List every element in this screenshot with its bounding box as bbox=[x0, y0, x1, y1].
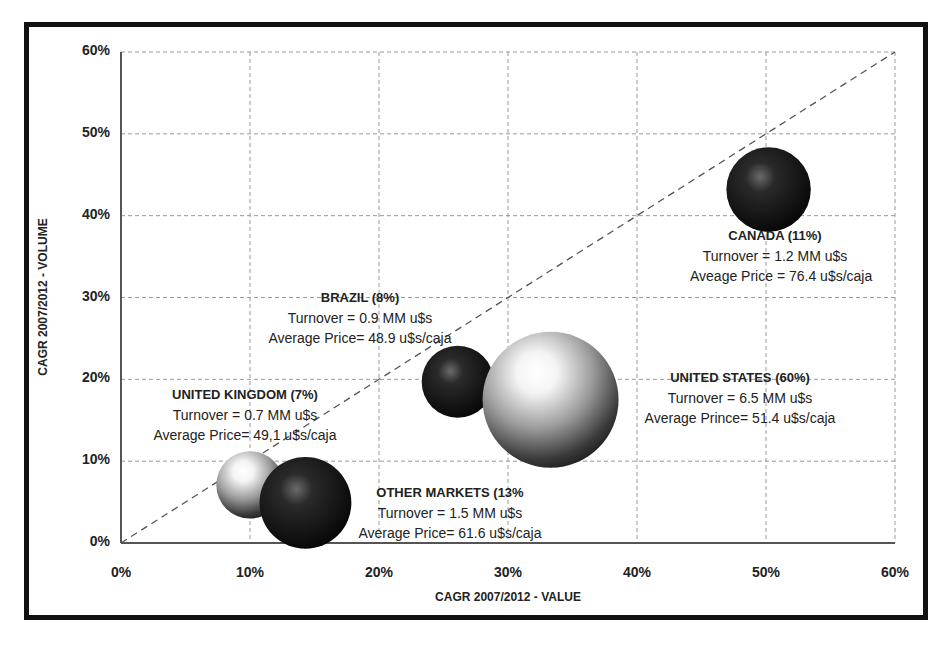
bubble-canada bbox=[726, 147, 810, 231]
label-brazil-title: BRAZIL (8%) bbox=[255, 288, 465, 308]
label-canada: CANADA (11%) Turnover = 1.2 MM u$s Aveag… bbox=[690, 226, 860, 286]
label-uk-title: UNITED KINGDOM (7%) bbox=[140, 385, 350, 405]
label-canada-price: Aveage Price = 76.4 u$s/caja bbox=[690, 266, 860, 286]
x-tick-label: 60% bbox=[865, 564, 925, 580]
label-uk-price: Average Price= 49,1 u$s/caja bbox=[140, 425, 350, 445]
y-tick-label: 10% bbox=[50, 451, 110, 467]
label-other-markets: OTHER MARKETS (13% Turnover = 1.5 MM u$s… bbox=[345, 483, 555, 543]
x-tick-label: 20% bbox=[349, 564, 409, 580]
label-brazil-turnover: Turnover = 0.9 MM u$s bbox=[255, 308, 465, 328]
x-tick-label: 50% bbox=[736, 564, 796, 580]
label-other-turnover: Turnover = 1.5 MM u$s bbox=[345, 503, 555, 523]
y-axis-title: CAGR 2007/2012 - VOLUME bbox=[36, 217, 50, 377]
label-uk: UNITED KINGDOM (7%) Turnover = 0.7 MM u$… bbox=[140, 385, 350, 445]
y-tick-label: 40% bbox=[50, 206, 110, 222]
label-other-title: OTHER MARKETS (13% bbox=[345, 483, 555, 503]
label-canada-turnover: Turnover = 1.2 MM u$s bbox=[690, 246, 860, 266]
label-us-turnover: Turnover = 6.5 MM u$s bbox=[630, 388, 850, 408]
bubble-united-states bbox=[483, 332, 619, 468]
bubble-other-markets bbox=[260, 457, 352, 549]
y-tick-label: 0% bbox=[50, 533, 110, 549]
x-tick-label: 0% bbox=[91, 564, 151, 580]
label-other-price: Average Price= 61.6 u$s/caja bbox=[345, 523, 555, 543]
x-axis-title: CAGR 2007/2012 - VALUE bbox=[378, 590, 638, 604]
label-brazil-price: Average Price= 48.9 u$s/caja bbox=[255, 328, 465, 348]
label-uk-turnover: Turnover = 0.7 MM u$s bbox=[140, 405, 350, 425]
label-us: UNITED STATES (60%) Turnover = 6.5 MM u$… bbox=[630, 368, 850, 428]
y-tick-label: 60% bbox=[50, 42, 110, 58]
label-us-price: Average Prince= 51.4 u$s/caja bbox=[630, 408, 850, 428]
plot-area bbox=[0, 0, 947, 650]
label-brazil: BRAZIL (8%) Turnover = 0.9 MM u$s Averag… bbox=[255, 288, 465, 348]
y-tick-label: 20% bbox=[50, 369, 110, 385]
x-tick-label: 10% bbox=[220, 564, 280, 580]
label-us-title: UNITED STATES (60%) bbox=[630, 368, 850, 388]
label-canada-title: CANADA (11%) bbox=[690, 226, 860, 246]
x-tick-label: 40% bbox=[607, 564, 667, 580]
y-tick-label: 30% bbox=[50, 288, 110, 304]
y-tick-label: 50% bbox=[50, 124, 110, 140]
bubble-brazil bbox=[422, 346, 494, 418]
x-tick-label: 30% bbox=[478, 564, 538, 580]
